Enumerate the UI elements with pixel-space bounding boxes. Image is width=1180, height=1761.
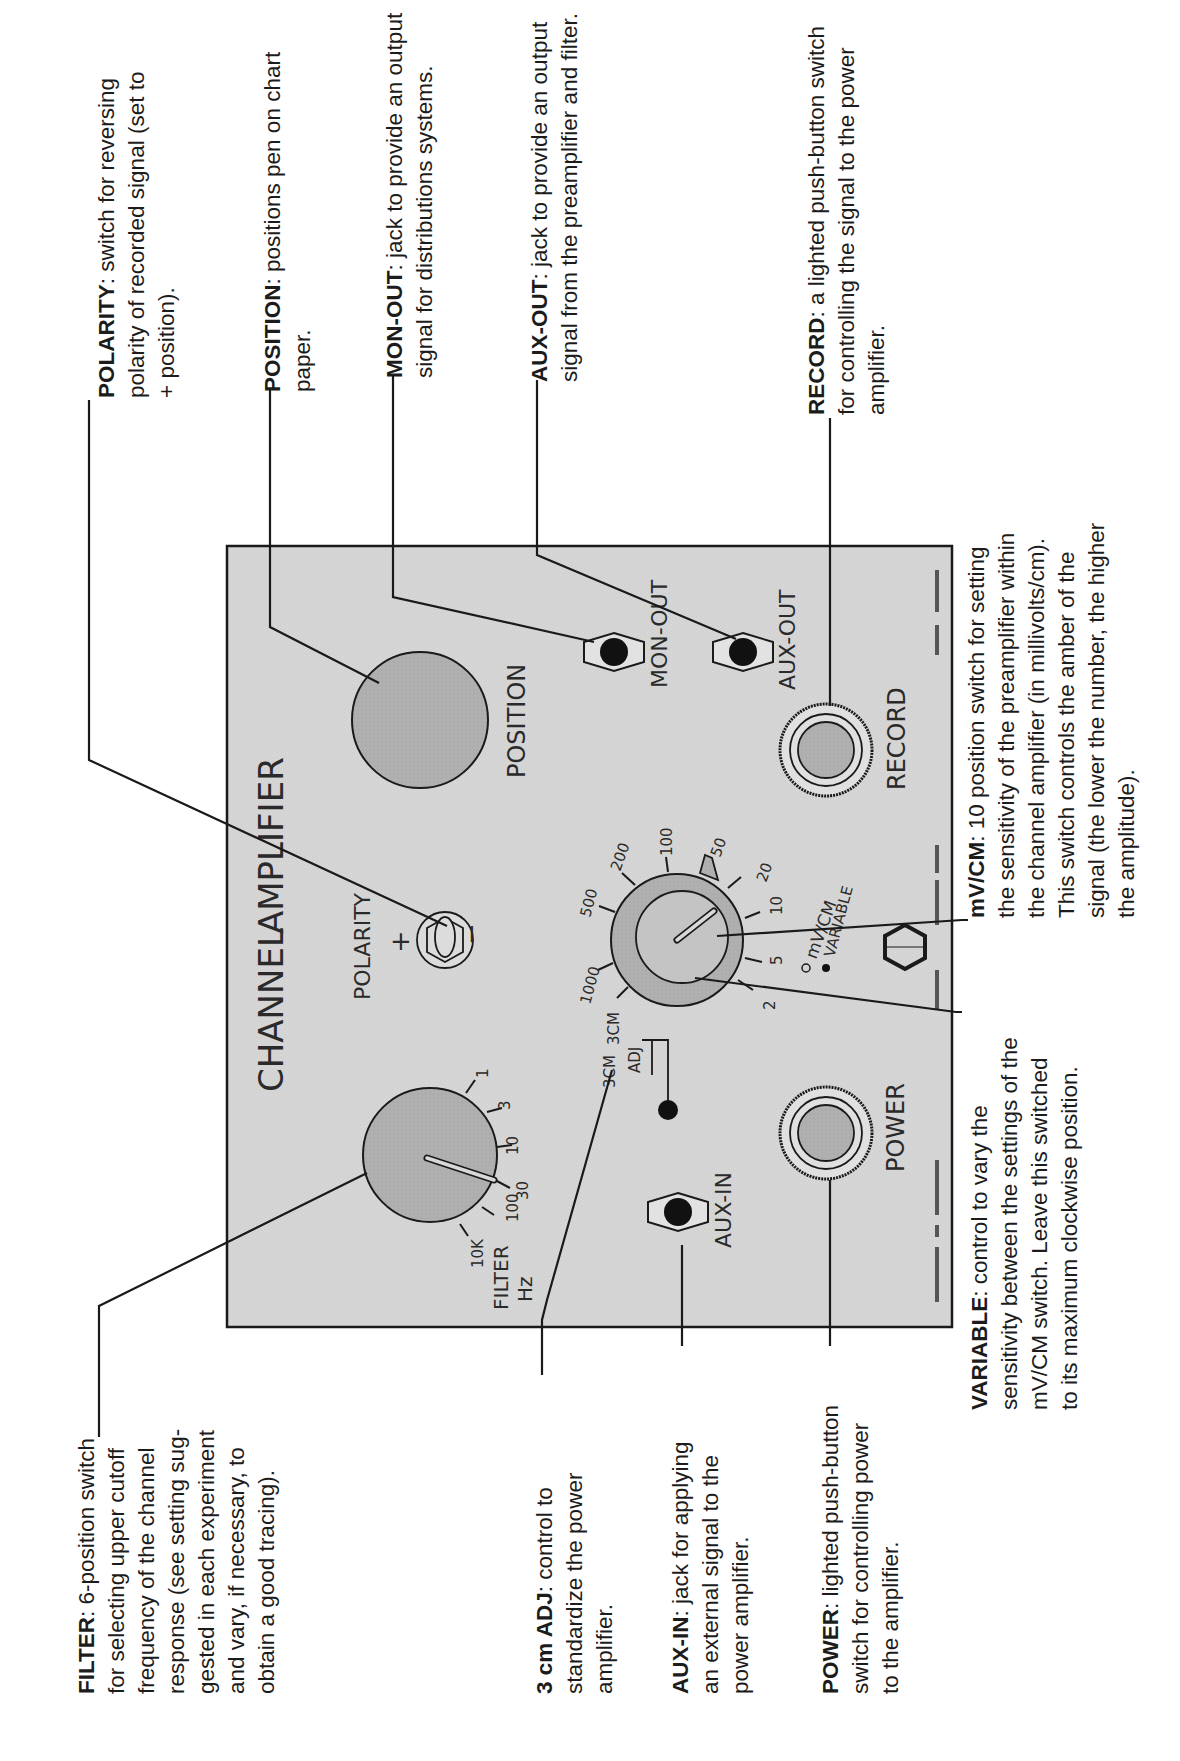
callout-mon-out: MON-OUT: jack to provide an output signa… — [380, 13, 440, 378]
callout-term: POSITION — [260, 284, 285, 392]
callout-term: MON-OUT — [382, 271, 407, 378]
callout-line: sensitivity between the settings of the — [995, 1037, 1025, 1410]
callout-line: the amplitude). — [1112, 523, 1142, 918]
record-button[interactable] — [780, 704, 872, 796]
callout-record: RECORD: a lighted push-button switch for… — [802, 26, 892, 415]
callout-term: 3 cm ADJ — [532, 1592, 557, 1694]
callout-term: mV/CM — [964, 842, 989, 918]
callout-line: the channel amplifier (in millivolts/cm)… — [1022, 523, 1052, 918]
callout-line: amplifier. — [862, 26, 892, 415]
polarity-label: POLARITY — [350, 892, 375, 1000]
callout-term: VARIABLE — [967, 1297, 992, 1410]
callout-line: standardize the power — [560, 1473, 590, 1694]
callout-term: AUX-IN — [668, 1617, 693, 1695]
position-knob-label: POSITION — [503, 664, 531, 778]
aux-in-jack[interactable] — [648, 1193, 708, 1231]
adj-control[interactable] — [658, 1100, 678, 1120]
panel-title-amplifier: AMPLIFIER — [251, 757, 291, 934]
callout-aux-in: AUX-IN: jack for applying an external si… — [666, 1441, 756, 1694]
callout-line: : jack to provide an output — [527, 22, 552, 280]
callout-line: : control to vary the — [967, 1105, 992, 1296]
callout-line: signal from the preamplifier and filter. — [555, 13, 585, 382]
filter-tick-30: 30 — [514, 1181, 532, 1200]
position-knob[interactable] — [352, 652, 488, 788]
callout-adj: 3 cm ADJ: control to standardize the pow… — [530, 1473, 620, 1694]
callout-line: to its maximum clockwise position. — [1055, 1037, 1085, 1410]
mv-cm-tick-10: 10 — [768, 896, 786, 915]
callout-line: : 6-position switch — [74, 1438, 99, 1617]
mv-cm-tick-2: 2 — [761, 1000, 779, 1010]
callout-line: : switch for reversing — [94, 78, 119, 284]
callout-filter: FILTER: 6-position switch for selecting … — [72, 1429, 282, 1694]
callout-polarity: POLARITY: switch for reversing polarity … — [92, 72, 182, 398]
mv-cm-tick-100: 100 — [658, 827, 676, 856]
callout-line: mV/CM switch. Leave this switched — [1025, 1037, 1055, 1410]
callout-aux-out: AUX-OUT: jack to provide an output signa… — [525, 13, 585, 382]
mon-out-label: MON-OUT — [647, 579, 672, 688]
panel-title: CHANNEL AMPLIFIER — [251, 757, 291, 1092]
callout-line: for selecting upper cutoff — [102, 1429, 132, 1694]
mv-cm-tick-5: 5 — [768, 955, 786, 965]
callout-line: : positions pen on chart — [260, 52, 285, 285]
callout-line: paper. — [288, 52, 318, 392]
filter-label: FILTER — [489, 1245, 513, 1310]
callout-line: switch for controlling power — [846, 1405, 876, 1694]
power-button[interactable] — [780, 1087, 872, 1179]
panel-title-channel: CHANNEL — [251, 928, 291, 1092]
callout-term: POLARITY — [94, 284, 119, 398]
callout-term: AUX-OUT — [527, 280, 552, 383]
filter-tick-10: 10 — [504, 1136, 522, 1155]
callout-term: FILTER — [74, 1617, 99, 1694]
callout-line: : 10 position switch for setting — [964, 547, 989, 842]
callout-line: for controlling the signal to the power — [832, 26, 862, 415]
callout-line: signal for distributions systems. — [410, 13, 440, 378]
callout-variable: VARIABLE: control to vary the sensitivit… — [965, 1037, 1085, 1410]
callout-line: the sensitivity of the preamplifier with… — [992, 523, 1022, 918]
callout-line: amplifier. — [590, 1473, 620, 1694]
mv-cm-tick-3cm: 3CM — [605, 1012, 623, 1045]
callout-line: an external signal to the — [696, 1441, 726, 1694]
power-label: POWER — [882, 1083, 910, 1172]
callout-line: : a lighted push-button switch — [804, 26, 829, 317]
callout-line: : lighted push-button — [818, 1405, 843, 1609]
filter-tick-3: 3 — [496, 1100, 514, 1110]
record-label: RECORD — [883, 687, 911, 790]
callout-power: POWER: lighted push-button switch for co… — [816, 1405, 906, 1694]
callout-line: : jack to provide an output — [382, 13, 407, 271]
adj-label-adj: ADJ — [626, 1047, 644, 1073]
callout-term: RECORD — [804, 317, 829, 415]
callout-position: POSITION: positions pen on chart paper. — [258, 52, 318, 392]
callout-line: response (see setting sug- — [162, 1429, 192, 1694]
callout-line: and vary, if necessary, to — [222, 1429, 252, 1694]
callout-line: polarity of recorded signal (set to — [122, 72, 152, 398]
callout-line: + position). — [152, 72, 182, 398]
callout-line: signal (the lower the number, the higher — [1082, 523, 1112, 918]
filter-tick-10k: 10K — [469, 1238, 487, 1268]
callout-term: POWER — [818, 1609, 843, 1694]
callout-mv-cm: mV/CM: 10 position switch for setting th… — [962, 523, 1142, 918]
aux-in-label: AUX-IN — [711, 1172, 736, 1248]
aux-out-label: AUX-OUT — [775, 589, 800, 690]
callout-line: : control to — [532, 1487, 557, 1592]
mon-out-jack[interactable] — [584, 633, 644, 671]
callout-line: This switch controls the amber of the — [1052, 523, 1082, 918]
adj-label-3cm: 3CM — [601, 1055, 619, 1088]
polarity-minus: − — [456, 923, 486, 945]
filter-tick-1: 1 — [474, 1068, 492, 1078]
callout-line: power amplifier. — [726, 1441, 756, 1694]
aux-out-jack[interactable] — [713, 633, 773, 671]
callout-line: to the amplifier. — [876, 1405, 906, 1694]
polarity-plus: + — [390, 926, 412, 956]
callout-line: gested in each experiment — [192, 1429, 222, 1694]
filter-unit-hz: Hz — [513, 1276, 537, 1302]
callout-line: obtain a good tracing). — [252, 1429, 282, 1694]
callout-line: frequency of the channel — [132, 1429, 162, 1694]
callout-line: : jack for applying — [668, 1441, 693, 1616]
